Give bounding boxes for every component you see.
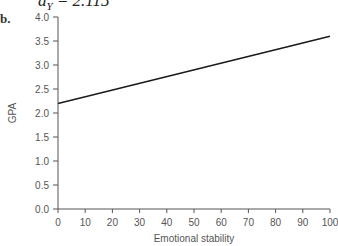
x-tick-label: 10	[80, 217, 92, 228]
y-tick-label: 0.0	[35, 204, 49, 215]
line-chart: 0.00.51.01.52.02.53.03.54.0 010203040506…	[0, 0, 338, 246]
x-tick-label: 80	[270, 217, 282, 228]
plot-series	[58, 36, 330, 103]
y-axis-title: GPA	[7, 102, 18, 123]
y-tick-label: 2.0	[35, 108, 49, 119]
x-axis-title: Emotional stability	[154, 233, 235, 244]
y-axis: 0.00.51.01.52.02.53.03.54.0	[35, 12, 58, 215]
y-tick-label: 2.5	[35, 84, 49, 95]
x-tick-label: 100	[322, 217, 338, 228]
x-tick-label: 90	[297, 217, 309, 228]
y-tick-label: 3.0	[35, 60, 49, 71]
regression-line	[58, 36, 330, 103]
x-tick-label: 30	[134, 217, 146, 228]
x-tick-label: 50	[188, 217, 200, 228]
x-tick-label: 40	[161, 217, 173, 228]
x-axis: 0102030405060708090100	[55, 209, 338, 228]
y-tick-label: 0.5	[35, 180, 49, 191]
y-tick-label: 4.0	[35, 12, 49, 23]
x-tick-label: 60	[216, 217, 228, 228]
y-tick-label: 1.5	[35, 132, 49, 143]
x-tick-label: 0	[55, 217, 61, 228]
x-tick-label: 70	[243, 217, 255, 228]
y-tick-label: 1.0	[35, 156, 49, 167]
x-tick-label: 20	[107, 217, 119, 228]
y-tick-label: 3.5	[35, 36, 49, 47]
